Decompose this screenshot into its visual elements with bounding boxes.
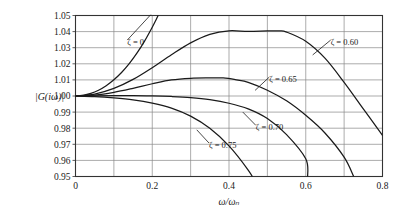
curve-label-0: ζ = 0 — [127, 37, 144, 47]
y-axis-title: |G(iω)| — [35, 91, 64, 103]
magnitude-plot: 00.20.40.60.8 0.950.960.970.980.991.001.… — [0, 0, 398, 213]
y-tick-label: 1.01 — [54, 75, 71, 85]
y-tick-label: 1.05 — [54, 11, 71, 21]
frequency-response-figure: 00.20.40.60.8 0.950.960.970.980.991.001.… — [0, 0, 398, 213]
y-tick-label: 0.96 — [54, 156, 71, 166]
y-tick-label: 1.03 — [54, 43, 71, 53]
curve-label-0-7: ζ = 0.70 — [256, 122, 283, 132]
x-tick-label: 0 — [73, 181, 78, 191]
y-tick-label: 0.98 — [54, 124, 71, 134]
x-tick-label: 0.4 — [223, 181, 235, 191]
y-tick-label: 0.95 — [54, 172, 71, 182]
x-tick-label: 0.8 — [377, 181, 389, 191]
x-tick-label: 0.2 — [146, 181, 158, 191]
y-tick-label: 0.99 — [54, 108, 71, 118]
curve-label-0-75: ζ = 0.75 — [209, 140, 236, 150]
y-tick-label: 1.02 — [54, 59, 71, 69]
x-axis-title: ω/ωₙ — [219, 196, 241, 207]
y-tick-label: 0.97 — [54, 140, 71, 150]
curve-label-0-65: ζ = 0.65 — [269, 74, 296, 84]
y-tick-label: 1.04 — [54, 27, 71, 37]
curve-label-0-6: ζ = 0.60 — [331, 37, 358, 47]
x-tick-label: 0.6 — [300, 181, 312, 191]
